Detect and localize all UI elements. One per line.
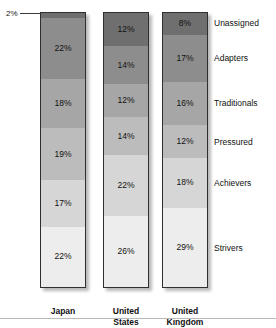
bottom-divider (0, 318, 276, 319)
stacked-bar-chart: 2% 2%22%18%19%17%22% Japan 12%14%12%14%2… (0, 0, 276, 328)
stacked-bar[interactable]: 8%17%16%12%18%29% (162, 12, 208, 288)
bar-segment-value: 17% (176, 54, 193, 63)
bar-segment-value: 14% (117, 132, 134, 141)
legend-item-achievers[interactable]: Achievers (214, 178, 251, 188)
bar-country-label-united-states: UnitedStates (103, 306, 149, 328)
bar-segment-adapters[interactable]: 14% (104, 46, 148, 84)
bar-segment-pressured[interactable]: 14% (104, 117, 148, 155)
stacked-bar[interactable]: 2%22%18%19%17%22% (40, 12, 86, 288)
bar-segment-traditionals[interactable]: 18% (41, 79, 85, 128)
bar-segment-pressured[interactable]: 19% (41, 128, 85, 180)
bar-segment-value: 26% (117, 247, 134, 256)
stacked-bar[interactable]: 12%14%12%14%22%26% (103, 12, 149, 288)
bar-segment-value: 17% (54, 199, 71, 208)
bar-segment-value: 22% (117, 181, 134, 190)
callout-label: 2% (6, 9, 18, 18)
bar-country-label-japan: Japan (40, 306, 86, 317)
bar-segment-value: 16% (176, 99, 193, 108)
country-label-line1: United (103, 306, 149, 317)
bar-segment-value: 29% (176, 243, 193, 252)
bar-segment-pressured[interactable]: 12% (163, 125, 207, 158)
legend-item-traditionals[interactable]: Traditionals (214, 98, 258, 108)
bar-segment-value: 19% (54, 150, 71, 159)
bar-country-label-united-kingdom: UnitedKingdom (162, 306, 208, 328)
bar-segment-adapters[interactable]: 22% (41, 18, 85, 78)
bar-segment-achievers[interactable]: 18% (163, 158, 207, 207)
bar-segment-value: 8% (179, 19, 191, 28)
bar-segment-value: 14% (117, 61, 134, 70)
bar-segment-value: 12% (176, 137, 193, 146)
legend-item-adapters[interactable]: Adapters (214, 53, 248, 63)
bar-segment-value: 18% (54, 99, 71, 108)
bar-segment-value: 22% (54, 44, 71, 53)
bar-group-united-kingdom: 8%17%16%12%18%29% UnitedKingdom (162, 12, 208, 288)
bar-group-united-states: 12%14%12%14%22%26% UnitedStates (103, 12, 149, 288)
bar-segment-traditionals[interactable]: 12% (104, 84, 148, 117)
category-legend: UnassignedAdaptersTraditionalsPressuredA… (214, 12, 276, 288)
bar-segment-value: 12% (117, 25, 134, 34)
bar-segment-strivers[interactable]: 22% (41, 227, 85, 287)
bar-segment-strivers[interactable]: 29% (163, 208, 207, 287)
callout-unassigned-japan: 2% (6, 9, 40, 18)
legend-item-pressured[interactable]: Pressured (214, 137, 253, 147)
bar-segment-value: 12% (117, 96, 134, 105)
bar-segment-achievers[interactable]: 22% (104, 155, 148, 215)
legend-item-unassigned[interactable]: Unassigned (214, 18, 259, 28)
callout-leader-line (20, 13, 40, 14)
bar-segment-unassigned[interactable]: 8% (163, 13, 207, 35)
bar-segment-traditionals[interactable]: 16% (163, 82, 207, 126)
country-label-line1: Japan (40, 306, 86, 317)
bar-segment-unassigned[interactable]: 12% (104, 13, 148, 46)
bar-segment-achievers[interactable]: 17% (41, 180, 85, 227)
bar-group-japan: 2%22%18%19%17%22% Japan (40, 12, 86, 288)
country-label-line1: United (162, 306, 208, 317)
bar-segment-value: 18% (176, 178, 193, 187)
legend-item-strivers[interactable]: Strivers (214, 243, 243, 253)
bar-segment-adapters[interactable]: 17% (163, 35, 207, 82)
bar-segment-value: 22% (54, 252, 71, 261)
bar-segment-strivers[interactable]: 26% (104, 216, 148, 287)
